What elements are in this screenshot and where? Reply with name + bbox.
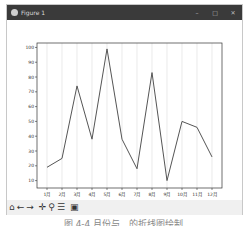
svg-text:10: 10 — [28, 178, 34, 183]
svg-text:20: 20 — [28, 163, 34, 168]
svg-text:3月: 3月 — [74, 192, 81, 198]
svg-text:8月: 8月 — [149, 192, 156, 198]
data-line — [47, 49, 212, 181]
svg-text:30: 30 — [28, 149, 34, 154]
svg-text:1月: 1月 — [44, 192, 51, 198]
zoom-icon[interactable]: ⚲ — [48, 203, 55, 212]
maximize-button[interactable]: □ — [206, 9, 224, 16]
forward-arrow-icon[interactable]: → — [26, 203, 34, 212]
svg-text:7月: 7月 — [134, 192, 141, 198]
svg-text:40: 40 — [28, 134, 34, 139]
svg-text:90: 90 — [28, 60, 34, 65]
svg-text:60: 60 — [28, 104, 34, 109]
close-button[interactable]: ✕ — [224, 9, 242, 16]
figure-canvas[interactable]: 1020304050607080901001月2月3月4月5月6月7月8月9月1… — [7, 20, 242, 200]
pan-icon[interactable]: ✛ — [39, 203, 47, 212]
svg-text:70: 70 — [28, 89, 34, 94]
svg-text:2月: 2月 — [59, 192, 66, 198]
line-chart: 1020304050607080901001月2月3月4月5月6月7月8月9月1… — [7, 20, 242, 200]
svg-text:5月: 5月 — [104, 192, 111, 198]
svg-text:100: 100 — [25, 45, 34, 50]
svg-text:80: 80 — [28, 75, 34, 80]
title-bar[interactable]: Figure 1 – □ ✕ — [7, 5, 242, 20]
svg-text:12月: 12月 — [207, 192, 217, 198]
figure-caption: 图 4-4 月份与…的折线图绘制 — [0, 217, 247, 226]
svg-text:50: 50 — [28, 119, 34, 124]
navigation-toolbar: ⌂ ← → ✛ ⚲ ☰ ▣ — [7, 200, 242, 215]
svg-text:11月: 11月 — [192, 192, 202, 198]
svg-text:4月: 4月 — [89, 192, 96, 198]
figure-window: Figure 1 – □ ✕ 1020304050607080901001月2月… — [6, 4, 243, 215]
svg-text:6月: 6月 — [119, 192, 126, 198]
configure-subplots-icon[interactable]: ☰ — [57, 203, 65, 212]
minimize-button[interactable]: – — [188, 9, 206, 16]
window-title: Figure 1 — [21, 9, 45, 16]
svg-text:9月: 9月 — [164, 192, 171, 198]
save-icon[interactable]: ▣ — [70, 203, 79, 212]
back-arrow-icon[interactable]: ← — [17, 203, 25, 212]
home-icon[interactable]: ⌂ — [9, 203, 15, 212]
svg-text:10月: 10月 — [177, 192, 187, 198]
app-icon — [11, 9, 18, 16]
